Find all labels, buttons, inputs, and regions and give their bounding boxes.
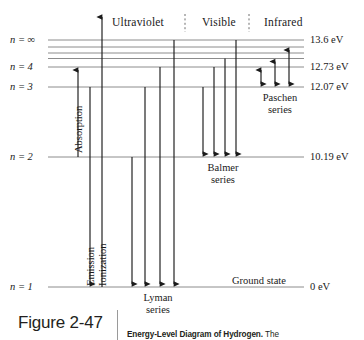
balmer-series-label: Balmer series bbox=[194, 162, 252, 186]
lyman-series-label: Lyman series bbox=[130, 292, 186, 316]
level-label-n-infinity: n = ∞ bbox=[10, 35, 35, 46]
paschen-series-label-line2: series bbox=[249, 104, 311, 116]
lyman-series-label-line1: Lyman bbox=[130, 292, 186, 304]
ground-state-label: Ground state bbox=[232, 276, 286, 287]
caption-divider-rule bbox=[117, 310, 118, 340]
energy-label-10-19-ev: 10.19 eV bbox=[310, 152, 349, 163]
paschen-series-label: Paschen series bbox=[249, 92, 311, 116]
energy-label-0-ev: 0 eV bbox=[310, 282, 330, 293]
energy-label-12-73-ev: 12.73 eV bbox=[310, 62, 349, 73]
balmer-series-label-line1: Balmer bbox=[194, 162, 252, 174]
figure-caption-tail: The bbox=[265, 330, 279, 339]
lyman-series-label-line2: series bbox=[130, 304, 186, 316]
level-label-n-1: n = 1 bbox=[10, 282, 33, 293]
balmer-series-label-line2: series bbox=[194, 174, 252, 186]
paschen-series-label-line1: Paschen bbox=[249, 92, 311, 104]
band-label-infrared: Infrared bbox=[264, 17, 303, 29]
level-label-n-4: n = 4 bbox=[10, 62, 33, 73]
level-label-n-3: n = 3 bbox=[10, 82, 33, 93]
figure-caption-title: Energy-Level Diagram of Hydrogen. bbox=[127, 330, 263, 339]
energy-level-diagram-figure: Ultraviolet Visible Infrared n = ∞ n = 4… bbox=[0, 0, 364, 340]
emission-label: Emission bbox=[86, 247, 97, 286]
figure-number: Figure 2-47 bbox=[18, 314, 103, 331]
absorption-label: Absorption bbox=[74, 106, 85, 153]
band-label-visible: Visible bbox=[202, 17, 236, 29]
figure-caption: Energy-Level Diagram of Hydrogen. The bbox=[127, 331, 279, 339]
ionization-label: Ionization bbox=[98, 243, 109, 286]
level-label-n-2: n = 2 bbox=[10, 152, 33, 163]
energy-label-12-07-ev: 12.07 eV bbox=[310, 82, 349, 93]
energy-label-13-6-ev: 13.6 eV bbox=[310, 35, 343, 46]
band-label-ultraviolet: Ultraviolet bbox=[112, 17, 164, 29]
